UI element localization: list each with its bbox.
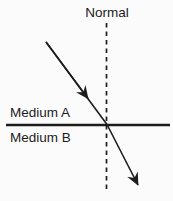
- medium-a-label: Medium A: [10, 105, 70, 120]
- refracted-ray: [107, 125, 138, 186]
- medium-b-label: Medium B: [10, 130, 71, 145]
- refraction-diagram: Normal Medium A Medium B: [0, 0, 173, 201]
- incident-ray-arrowhead-icon: [46, 42, 88, 99]
- normal-label: Normal: [85, 5, 129, 20]
- diagram-canvas: Normal Medium A Medium B: [0, 0, 173, 201]
